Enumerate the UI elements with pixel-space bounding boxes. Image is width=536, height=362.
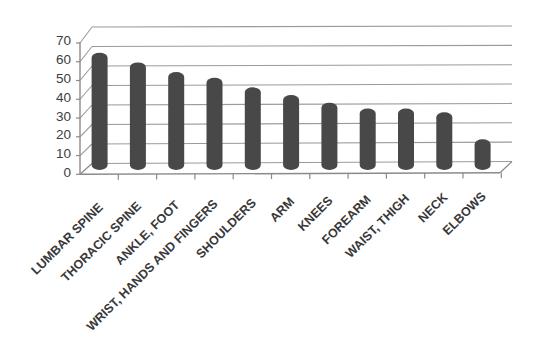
- axis-wall-connector: [80, 47, 92, 62]
- x-axis-line: [80, 173, 500, 175]
- y-axis-tick-label: 30: [56, 109, 71, 124]
- bar: [283, 95, 299, 170]
- axis-wall-connector: [80, 27, 92, 43]
- bar: [360, 108, 376, 170]
- category-label: WAIST, THIGH: [343, 191, 412, 260]
- bar: [321, 103, 337, 170]
- axis-wall-connector: [80, 86, 92, 100]
- floor-left-edge: [80, 164, 92, 175]
- bar: [92, 53, 108, 170]
- chart-figure: 010203040506070LUMBAR SPINETHORACIC SPIN…: [0, 0, 536, 362]
- y-axis-tick-label: 60: [56, 52, 71, 67]
- y-axis-tick-label: 40: [56, 90, 71, 105]
- bar: [436, 112, 452, 170]
- y-axis-tick-label: 10: [56, 146, 71, 161]
- y-axis-tick-label: 70: [56, 33, 71, 48]
- gridline: [92, 26, 512, 27]
- y-axis-tick-label: 20: [56, 127, 71, 142]
- y-axis-tick-label: 0: [63, 165, 71, 180]
- axis-wall-connector: [80, 66, 92, 81]
- bar: [168, 72, 184, 170]
- bar-chart-svg: 010203040506070LUMBAR SPINETHORACIC SPIN…: [0, 0, 536, 362]
- bar: [398, 108, 414, 170]
- category-label: NECK: [415, 190, 450, 225]
- bar: [475, 139, 491, 170]
- category-label: ELBOWS: [440, 189, 489, 238]
- category-label: ANKLE, FOOT: [113, 198, 183, 268]
- bar: [245, 87, 261, 170]
- gridline: [92, 65, 512, 66]
- gridline: [92, 103, 512, 105]
- floor-right-edge: [500, 162, 512, 173]
- axis-wall-connector: [80, 105, 92, 118]
- axis-wall-connector: [80, 144, 92, 156]
- bar: [130, 62, 146, 170]
- bar: [207, 78, 223, 170]
- category-label: ARM: [267, 195, 297, 225]
- gridline: [92, 84, 512, 85]
- axis-wall-connector: [80, 125, 92, 137]
- y-axis-tick-label: 50: [56, 71, 71, 86]
- gridline: [92, 45, 512, 46]
